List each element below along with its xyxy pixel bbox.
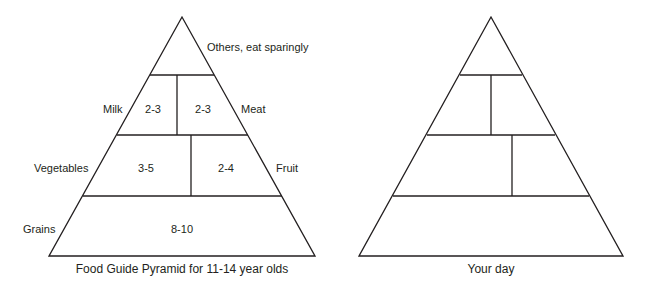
left-pyramid-caption: Food Guide Pyramid for 11-14 year olds bbox=[76, 262, 289, 276]
servings-milk: 2-3 bbox=[145, 103, 161, 115]
label-meat: Meat bbox=[241, 103, 265, 115]
right-pyramid-outline bbox=[359, 17, 623, 256]
servings-vegetables: 3-5 bbox=[138, 162, 154, 174]
right-pyramid bbox=[359, 17, 623, 256]
pyramid-diagrams bbox=[0, 0, 647, 289]
servings-fruit: 2-4 bbox=[218, 162, 234, 174]
label-milk: Milk bbox=[103, 103, 123, 115]
label-fruit: Fruit bbox=[276, 162, 298, 174]
label-others: Others, eat sparingly bbox=[207, 41, 309, 53]
servings-meat: 2-3 bbox=[195, 103, 211, 115]
right-pyramid-caption: Your day bbox=[468, 262, 515, 276]
label-vegetables: Vegetables bbox=[34, 162, 88, 174]
servings-grains: 8-10 bbox=[171, 223, 193, 235]
label-grains: Grains bbox=[23, 223, 55, 235]
